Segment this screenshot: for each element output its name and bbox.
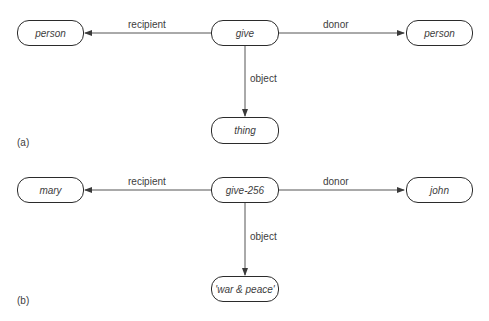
node-right-b: john [406,177,473,203]
node-left-b: mary [17,177,84,203]
label-donor-a: donor [323,19,349,30]
node-left-a: person [17,20,84,46]
panel-label-a: (a) [17,137,29,148]
label-object-a: object [250,73,277,84]
label-object-b: object [250,231,277,242]
node-center-b: give-256 [211,177,279,203]
label-recipient-b: recipient [128,176,166,187]
node-right-a: person [406,20,473,46]
label-donor-b: donor [323,176,349,187]
node-bottom-a: thing [211,117,279,144]
panel-label-b: (b) [17,295,29,306]
node-bottom-b: 'war & peace' [211,276,279,302]
label-recipient-a: recipient [128,19,166,30]
node-center-a: give [211,20,279,46]
edges-layer [0,0,489,321]
